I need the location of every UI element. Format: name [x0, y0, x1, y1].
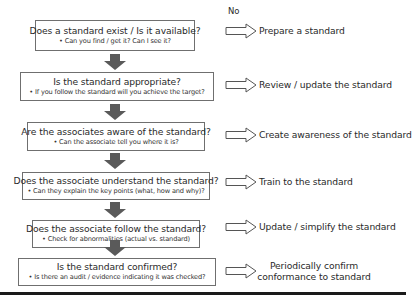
step-2-detail: • If you follow the standard will you ac… [29, 89, 204, 97]
step-1-detail: • Can you find / get it? Can I see it? [59, 38, 171, 46]
step-4-box: Does the associate understand the standa… [22, 172, 210, 200]
step-3-box: Are the associates aware of the standard… [27, 122, 205, 151]
step-3-action: Create awareness of the standard [259, 129, 412, 140]
step-1-action: Prepare a standard [259, 25, 345, 36]
right-arrow-icon [225, 127, 257, 143]
step-1-box: Does a standard exist / Is it available?… [35, 20, 195, 51]
step-6-box: Is the standard confirmed? • Is there an… [18, 258, 216, 286]
right-arrow-icon [225, 263, 257, 279]
step-6-action-line1: Periodically confirm [254, 260, 374, 271]
down-arrow-icon [104, 240, 126, 256]
step-6-action-line2: conformance to standard [254, 271, 374, 282]
down-arrow-icon [104, 54, 126, 70]
right-arrow-icon [225, 23, 257, 39]
step-2-box: Is the standard appropriate? • If you fo… [20, 72, 214, 101]
step-6-detail: • Is there an audit / evidence indicatin… [29, 274, 206, 282]
step-4-detail: • Can they explain the key points (what,… [27, 188, 204, 196]
bottom-divider [0, 292, 406, 295]
step-4-action: Train to the standard [259, 176, 353, 187]
step-4-question: Does the associate understand the standa… [13, 176, 218, 187]
step-5-action: Update / simplify the standard [259, 221, 396, 232]
step-6-action: Periodically confirm conformance to stan… [254, 260, 374, 282]
right-arrow-icon [225, 174, 257, 190]
down-arrow-icon [104, 104, 126, 120]
down-arrow-icon [104, 153, 126, 169]
step-3-question: Are the associates aware of the standard… [21, 127, 211, 138]
down-arrow-icon [104, 202, 126, 218]
right-arrow-icon [225, 219, 257, 235]
step-6-question: Is the standard confirmed? [57, 262, 178, 273]
step-1-question: Does a standard exist / Is it available? [30, 26, 201, 37]
step-3-detail: • Can the associate tell you where it is… [53, 139, 178, 147]
no-label: No [228, 6, 240, 16]
step-5-question: Does the associate follow the standard? [26, 224, 206, 235]
step-2-question: Is the standard appropriate? [53, 77, 181, 88]
step-2-action: Review / update the standard [259, 79, 392, 90]
right-arrow-icon [225, 77, 257, 93]
